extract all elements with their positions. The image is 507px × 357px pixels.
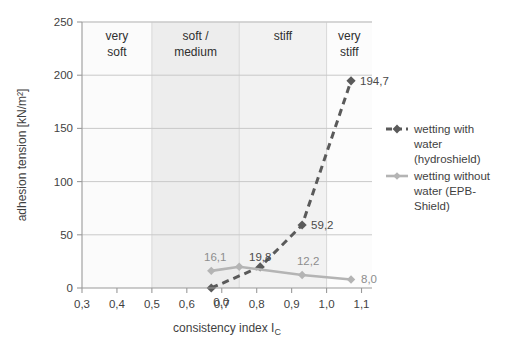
y-tick-label: 100 [54,176,73,188]
x-axis-title-subscript: C [274,327,281,337]
legend-label: Shield) [414,200,450,212]
x-tick-label: 0,4 [109,298,126,310]
chart-figure: 0,019,859,2194,716,112,28,0 verysoftsoft… [0,0,507,357]
x-tick-label: 0,3 [74,298,90,310]
y-tick-label: 0 [67,282,73,294]
x-tick-label: 1,1 [354,298,370,310]
x-axis-title-main: consistency index I [173,321,274,335]
band-label: medium [174,45,217,59]
data-label: 19,8 [249,251,271,263]
x-tick-label: 0,9 [284,298,300,310]
band-very-soft [82,22,152,288]
band-label: very [106,29,129,43]
x-tick-label: 0,5 [144,298,160,310]
data-label: 194,7 [360,75,389,87]
x-tick-label: 1,0 [319,298,335,310]
data-label: 12,2 [297,255,319,267]
band-label: stiff [274,29,293,43]
consistency-band-group [82,22,372,288]
y-tick-label: 200 [54,69,73,81]
band-label: very [338,29,361,43]
x-tick-label: 0,6 [179,298,195,310]
x-tick-label: 0,8 [249,298,265,310]
legend-label: water (EPB- [413,185,476,197]
y-axis-title: adhesion tension [kN/m²] [15,89,29,222]
adhesion-tension-chart: 0,019,859,2194,716,112,28,0 verysoftsoft… [0,0,507,357]
x-tick-label: 0,7 [214,298,230,310]
band-stiff [239,22,326,288]
band-label: soft / [183,29,210,43]
y-tick-label: 150 [54,122,73,134]
y-tick-label: 50 [60,229,73,241]
data-label: 8,0 [361,273,377,285]
band-label: stiff [340,45,359,59]
legend-label: (hydroshield) [414,153,481,165]
legend-label: water [413,138,442,150]
y-tick-label: 250 [54,16,73,28]
band-soft-medium [152,22,239,288]
band-label: soft [107,45,127,59]
band-very-stiff [327,22,372,288]
data-label: 59,2 [311,219,333,231]
data-label: 16,1 [204,251,226,263]
legend-label: wetting without [413,170,491,182]
legend-label: wetting with [413,123,474,135]
x-axis-title: consistency index IC [173,321,281,337]
